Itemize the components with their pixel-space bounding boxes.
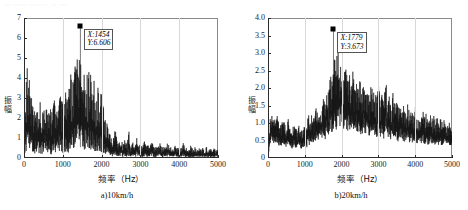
y-tick-label: 6 bbox=[17, 34, 21, 42]
spectrum-plot-a bbox=[24, 18, 218, 158]
x-tick-mark bbox=[378, 155, 379, 158]
x-gridline bbox=[305, 18, 306, 158]
x-tick-mark bbox=[102, 155, 103, 158]
caption-a: a)10km/h bbox=[0, 190, 234, 200]
y-tick-mark bbox=[268, 36, 271, 37]
y-tick-label: 0 bbox=[261, 154, 265, 162]
y-tick-label: 2.0 bbox=[255, 84, 265, 92]
x-gridline bbox=[415, 18, 416, 158]
spectrum-svg-a bbox=[24, 18, 218, 158]
x-tick-label: 4000 bbox=[407, 161, 423, 169]
y-tick-mark bbox=[268, 18, 271, 19]
y-tick-label: 4 bbox=[17, 74, 21, 82]
datatip-marker bbox=[331, 27, 336, 32]
figure-page: ▫▫▫ ▫▫▫▫▫ ▫▫▫▫ ▫▫ ▫▫ ▫▫▫ 振幅 012345670100… bbox=[0, 0, 468, 210]
y-tick-mark bbox=[24, 58, 27, 59]
figure-a: 振幅 01234567010002000300040005000 X:1454Y… bbox=[0, 0, 234, 210]
datatip-y-value: Y:6.606 bbox=[87, 39, 110, 48]
y-tick-label: 4.0 bbox=[255, 14, 265, 22]
y-tick-label: 5 bbox=[17, 54, 21, 62]
x-tick-mark bbox=[63, 155, 64, 158]
x-gridline bbox=[63, 18, 64, 158]
x-tick-label: 5000 bbox=[444, 161, 460, 169]
x-axis-line-a bbox=[24, 157, 218, 158]
x-tick-label: 0 bbox=[22, 161, 26, 169]
figure-b: 振幅 00.51.01.52.02.53.03.54.0010002000300… bbox=[234, 0, 468, 210]
y-tick-label: 3 bbox=[17, 94, 21, 102]
x-tick-label: 3000 bbox=[370, 161, 386, 169]
datatip-box[interactable]: X:1779Y:3.673 bbox=[337, 32, 366, 53]
y-axis-label-a: 振幅 bbox=[2, 96, 13, 114]
x-tick-mark bbox=[452, 155, 453, 158]
y-tick-mark bbox=[24, 78, 27, 79]
x-tick-label: 0 bbox=[266, 161, 270, 169]
datatip-y-value: Y:3.673 bbox=[340, 43, 363, 52]
x-tick-mark bbox=[140, 155, 141, 158]
x-tick-label: 5000 bbox=[210, 161, 226, 169]
x-gridline bbox=[378, 18, 379, 158]
y-axis-line-a bbox=[24, 18, 25, 158]
x-tick-mark bbox=[218, 155, 219, 158]
x-axis-line-b bbox=[268, 157, 452, 158]
y-tick-label: 2.5 bbox=[255, 67, 265, 75]
x-gridline bbox=[140, 18, 141, 158]
y-tick-mark bbox=[268, 106, 271, 107]
y-tick-label: 2 bbox=[17, 114, 21, 122]
y-tick-label: 1 bbox=[17, 134, 21, 142]
x-tick-label: 4000 bbox=[171, 161, 187, 169]
y-tick-label: 7 bbox=[17, 14, 21, 22]
y-tick-mark bbox=[268, 53, 271, 54]
x-tick-mark bbox=[342, 155, 343, 158]
y-tick-label: 1.0 bbox=[255, 119, 265, 127]
y-tick-mark bbox=[24, 18, 27, 19]
x-axis-label-b: 频率（Hz） bbox=[268, 172, 452, 184]
y-tick-mark bbox=[24, 138, 27, 139]
y-tick-mark bbox=[268, 88, 271, 89]
datatip-marker bbox=[78, 23, 83, 28]
x-tick-mark bbox=[179, 155, 180, 158]
x-tick-label: 3000 bbox=[132, 161, 148, 169]
x-tick-mark bbox=[415, 155, 416, 158]
y-tick-label: 0 bbox=[17, 154, 21, 162]
x-gridline bbox=[179, 18, 180, 158]
y-tick-mark bbox=[24, 98, 27, 99]
x-axis-label-a: 频率（Hz） bbox=[24, 172, 218, 184]
datatip-box[interactable]: X:1454Y:6.606 bbox=[84, 29, 113, 50]
y-tick-mark bbox=[24, 118, 27, 119]
plot-area-b: 00.51.01.52.02.53.03.54.0010002000300040… bbox=[268, 18, 452, 158]
x-tick-label: 2000 bbox=[94, 161, 110, 169]
plot-area-a: 01234567010002000300040005000 X:1454Y:6.… bbox=[24, 18, 218, 158]
caption-b: b)20km/h bbox=[234, 190, 468, 200]
y-tick-mark bbox=[268, 123, 271, 124]
y-tick-mark bbox=[24, 38, 27, 39]
x-tick-label: 1000 bbox=[55, 161, 71, 169]
x-tick-mark bbox=[24, 155, 25, 158]
y-tick-label: 1.5 bbox=[255, 102, 265, 110]
y-tick-label: 3.0 bbox=[255, 49, 265, 57]
x-tick-label: 2000 bbox=[334, 161, 350, 169]
x-tick-label: 1000 bbox=[297, 161, 313, 169]
y-tick-mark bbox=[268, 71, 271, 72]
y-tick-label: 3.5 bbox=[255, 32, 265, 40]
y-tick-mark bbox=[268, 141, 271, 142]
x-tick-mark bbox=[305, 155, 306, 158]
y-tick-label: 0.5 bbox=[255, 137, 265, 145]
x-tick-mark bbox=[268, 155, 269, 158]
